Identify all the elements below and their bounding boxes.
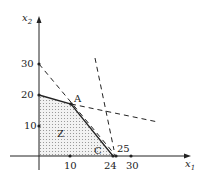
y-tick-10: 10 [24,120,37,131]
constraint-line-3 [95,58,114,150]
label-a: A [73,93,82,104]
tick-x-24 [111,154,114,157]
x-tick-25: 25 [117,143,130,154]
tick-y-20 [37,93,40,96]
y-axis-label: x2 [22,12,33,26]
x-tick-30: 30 [126,160,139,171]
x-axis-label: x1 [185,158,195,172]
tick-y-30 [37,62,40,65]
tick-x-25 [114,154,117,157]
label-c: C [94,145,102,156]
x-tick-24: 24 [104,160,117,171]
y-tick-20: 20 [21,89,34,100]
x-tick-10: 10 [64,160,77,171]
label-z: Z [57,128,64,139]
tick-x-30 [129,154,132,157]
tick-y-10 [37,124,40,127]
point-a [69,102,73,106]
y-axis-arrow-icon [37,16,42,23]
feasible-region [39,95,113,156]
tick-x-10 [68,154,71,157]
lp-diagram: x2 x1 30 20 10 10 24 30 25 A C Z [0,0,208,177]
y-tick-30: 30 [21,58,34,69]
